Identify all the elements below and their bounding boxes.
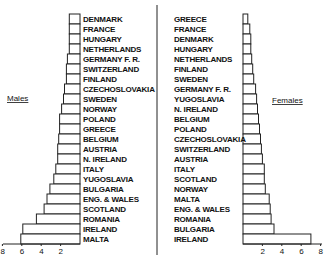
female-bar: [243, 174, 264, 184]
females-bars: GREECEFRANCEDENMARKHUNGARYNETHERLANDSFIN…: [174, 14, 311, 244]
female-bar-row: CZECHOSLOVAKIA: [174, 134, 261, 144]
male-bar-row: N. IRELAND: [58, 154, 128, 164]
male-bar: [62, 104, 80, 114]
male-country-label: HUNGARY: [83, 35, 123, 44]
female-bar: [243, 204, 270, 214]
pyramid-chart: DENMARKFRANCEHUNGARYNETHERLANDSGERMANY F…: [0, 0, 330, 259]
female-bar-row: ENG. & WALES: [174, 204, 270, 214]
male-bar-row: GERMANY F. R.: [67, 54, 139, 64]
male-bar-row: SWEDEN: [64, 94, 118, 104]
female-country-label: GERMANY F. R.: [174, 85, 231, 94]
male-bar: [69, 34, 80, 44]
male-country-label: ENG. & WALES: [83, 195, 140, 204]
male-bar-row: NORWAY: [62, 104, 118, 114]
female-bar: [243, 234, 311, 244]
male-bar: [50, 184, 80, 194]
male-bar-row: CZECHOSLOVAKIA: [65, 84, 156, 94]
male-country-label: DENMARK: [83, 15, 123, 24]
female-country-label: NORWAY: [174, 185, 209, 194]
female-bar: [243, 154, 262, 164]
male-bar: [67, 54, 80, 64]
female-bar: [243, 64, 253, 74]
female-bar-row: SWEDEN: [174, 74, 254, 84]
male-bar: [66, 64, 80, 74]
female-bar-row: GERMANY F. R.: [174, 84, 256, 94]
male-bar-row: HUNGARY: [69, 34, 122, 44]
male-country-label: ROMANIA: [83, 215, 120, 224]
female-bar-row: SWITZERLAND: [174, 144, 261, 154]
males-bars: DENMARKFRANCEHUNGARYNETHERLANDSGERMANY F…: [21, 14, 155, 244]
female-country-label: FRANCE: [174, 25, 207, 34]
male-bar: [21, 234, 80, 244]
female-country-label: GREECE: [174, 15, 207, 24]
male-bar-row: DENMARK: [69, 14, 123, 24]
male-bar-row: GREECE: [60, 124, 117, 134]
male-bar: [69, 44, 80, 54]
male-bar: [36, 214, 80, 224]
females-x-ticks: 2468: [260, 244, 323, 256]
male-bar: [23, 224, 80, 234]
male-tick-label: 8: [0, 247, 5, 256]
female-country-label: YUGOSLAVIA: [174, 95, 225, 104]
female-bar-row: ITALY: [174, 164, 264, 174]
female-country-label: DENMARK: [174, 35, 214, 44]
female-bar-row: BELGIUM: [174, 114, 259, 124]
female-country-label: SWITZERLAND: [174, 145, 230, 154]
male-bar: [56, 164, 80, 174]
female-country-label: CZECHOSLOVAKIA: [174, 135, 246, 144]
female-bar: [243, 214, 271, 224]
male-bar-row: FINLAND: [66, 74, 117, 84]
male-bar: [54, 174, 80, 184]
female-bar-row: NETHERLANDS: [174, 54, 252, 64]
female-country-label: SCOTLAND: [174, 175, 217, 184]
female-country-label: ITALY: [174, 165, 196, 174]
male-country-label: MALTA: [83, 235, 109, 244]
female-country-label: BELGIUM: [174, 115, 210, 124]
female-bar-row: GREECE: [174, 14, 248, 24]
female-country-label: ROMANIA: [174, 215, 211, 224]
female-bar-row: YUGOSLAVIA: [174, 94, 257, 104]
male-bar-row: BELGIUM: [59, 134, 119, 144]
male-bar-row: ENG. & WALES: [47, 194, 140, 204]
female-tick-label: 6: [299, 247, 304, 256]
female-bar: [243, 104, 258, 114]
female-bar: [243, 114, 259, 124]
female-country-label: POLAND: [174, 125, 207, 134]
female-bar: [243, 54, 252, 64]
male-bar-row: SWITZERLAND: [66, 64, 139, 74]
male-bar: [47, 194, 80, 204]
male-bar: [60, 124, 80, 134]
female-bar-row: IRELAND: [174, 234, 311, 244]
female-bar: [243, 74, 254, 84]
male-country-label: SWEDEN: [83, 95, 117, 104]
female-bar-row: AUSTRIA: [174, 154, 262, 164]
male-bar: [65, 84, 81, 94]
male-country-label: GERMANY F. R.: [83, 55, 140, 64]
male-tick-label: 4: [39, 247, 44, 256]
male-bar: [60, 114, 80, 124]
female-tick-label: 2: [260, 247, 265, 256]
female-bar-row: HUNGARY: [174, 44, 251, 54]
female-bar-row: FINLAND: [174, 64, 253, 74]
male-bar-row: AUSTRIA: [58, 144, 118, 154]
male-bar-row: POLAND: [60, 114, 116, 124]
male-bar: [44, 204, 80, 214]
male-bar-row: SCOTLAND: [44, 204, 126, 214]
female-bar: [243, 144, 261, 154]
female-bar-row: NORWAY: [174, 184, 265, 194]
male-country-label: FRANCE: [83, 25, 116, 34]
female-country-label: IRELAND: [174, 235, 209, 244]
female-bar: [243, 224, 274, 234]
female-bar-row: DENMARK: [174, 34, 251, 44]
female-bar-row: MALTA: [174, 194, 269, 204]
female-bar: [243, 24, 250, 34]
male-country-label: IRELAND: [83, 225, 118, 234]
male-bar: [69, 14, 80, 24]
female-bar-row: ROMANIA: [174, 214, 271, 224]
female-country-label: BULGARIA: [174, 225, 215, 234]
male-country-label: SWITZERLAND: [83, 65, 139, 74]
male-country-label: ITALY: [83, 165, 105, 174]
male-bar-row: NETHERLANDS: [69, 44, 142, 54]
female-country-label: MALTA: [174, 195, 200, 204]
male-bar-row: IRELAND: [23, 224, 118, 234]
